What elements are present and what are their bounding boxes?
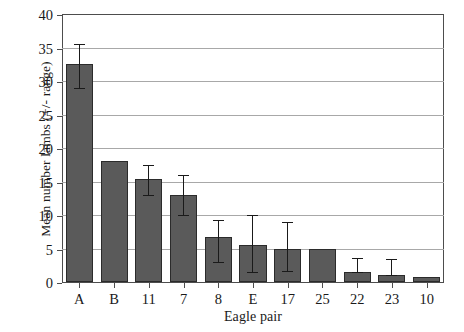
y-tick-mark	[57, 216, 62, 217]
x-tick-mark	[357, 283, 358, 288]
x-tick-mark	[322, 283, 323, 288]
y-tick-label: 0	[13, 275, 53, 292]
error-bar-cap-lower	[143, 195, 154, 196]
y-tick-mark	[57, 183, 62, 184]
x-tick-label: B	[109, 291, 119, 308]
y-tick-mark	[57, 283, 62, 284]
y-tick-label: 30	[13, 74, 53, 91]
error-bar-cap-lower	[213, 262, 224, 263]
x-tick-mark	[392, 283, 393, 288]
bar	[413, 277, 440, 282]
y-tick-label: 20	[13, 141, 53, 158]
error-bar-cap-lower	[178, 215, 189, 216]
y-tick-label: 15	[13, 174, 53, 191]
y-tick-mark	[57, 82, 62, 83]
error-bar-cap-upper	[386, 259, 397, 260]
plot-area: 0510152025303540	[62, 14, 444, 283]
error-bar-cap-upper	[282, 222, 293, 223]
error-bar	[378, 14, 405, 283]
error-bar-cap-upper	[352, 258, 363, 259]
error-bar	[344, 14, 371, 283]
error-bar-stem	[252, 216, 253, 273]
error-bar	[239, 14, 266, 283]
x-tick-mark	[253, 283, 254, 288]
error-bar-cap-lower	[352, 272, 363, 273]
error-bar-cap-upper	[178, 175, 189, 176]
bar	[309, 249, 336, 283]
error-bar-cap-lower	[247, 272, 258, 273]
x-tick-mark	[427, 283, 428, 288]
x-tick-label: 25	[315, 291, 330, 308]
error-bar	[66, 14, 93, 283]
x-tick-label: 7	[180, 291, 187, 308]
x-axis-title: Eagle pair	[62, 309, 444, 325]
error-bar	[274, 14, 301, 283]
error-bar-stem	[391, 260, 392, 277]
y-tick-label: 40	[13, 7, 53, 24]
y-tick-label: 5	[13, 241, 53, 258]
error-bar-cap-lower	[386, 275, 397, 276]
y-tick-label: 10	[13, 208, 53, 225]
y-tick-mark	[57, 250, 62, 251]
y-tick-mark	[57, 149, 62, 150]
error-bar	[205, 14, 232, 283]
x-tick-label: E	[249, 291, 258, 308]
y-tick-mark	[57, 15, 62, 16]
error-bar	[170, 14, 197, 283]
x-tick-mark	[184, 283, 185, 288]
x-tick-label: 11	[142, 291, 156, 308]
x-tick-label: A	[74, 291, 84, 308]
error-bar-stem	[218, 221, 219, 263]
error-bar-cap-upper	[247, 215, 258, 216]
x-tick-label: 8	[215, 291, 222, 308]
error-bar	[135, 14, 162, 283]
bar	[101, 161, 128, 282]
x-tick-mark	[218, 283, 219, 288]
error-bar-stem	[183, 176, 184, 216]
bar-chart-figure: Mean number lambs (+/- range) 0510152025…	[0, 0, 464, 332]
x-tick-label: 22	[350, 291, 365, 308]
x-tick-mark	[79, 283, 80, 288]
error-bar-cap-upper	[213, 220, 224, 221]
error-bar-cap-upper	[143, 165, 154, 166]
y-tick-label: 35	[13, 40, 53, 57]
error-bar-cap-lower	[282, 271, 293, 272]
error-bar-stem	[287, 223, 288, 272]
error-bar-stem	[79, 45, 80, 89]
x-tick-label: 17	[280, 291, 295, 308]
y-tick-label: 25	[13, 107, 53, 124]
x-tick-label: 10	[419, 291, 434, 308]
x-tick-mark	[288, 283, 289, 288]
y-tick-mark	[57, 116, 62, 117]
x-tick-mark	[114, 283, 115, 288]
error-bar-cap-upper	[74, 44, 85, 45]
error-bar-stem	[148, 166, 149, 196]
x-tick-label: 23	[385, 291, 400, 308]
error-bar-stem	[357, 259, 358, 273]
error-bar-cap-lower	[74, 88, 85, 89]
y-tick-mark	[57, 49, 62, 50]
x-tick-mark	[149, 283, 150, 288]
